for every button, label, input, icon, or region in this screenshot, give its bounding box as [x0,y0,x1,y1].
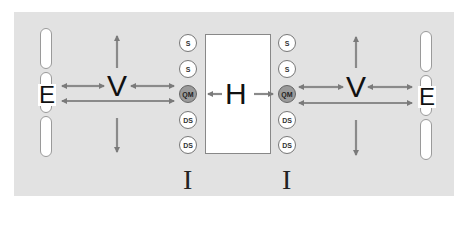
right-circle-qm: QM [278,85,296,103]
right-i-label: I [282,166,291,194]
right-e-label: E [418,86,436,108]
h-label: H [225,79,247,109]
left-circle-ds-2: DS [179,136,197,154]
right-circle-s-1: S [278,34,296,52]
left-circle-ds-1: DS [179,111,197,129]
left-circle-qm: QM [179,85,197,103]
right-circle-s-2: S [278,60,296,78]
right-circle-ds-2: DS [278,136,296,154]
right-circle-ds-1: DS [278,111,296,129]
left-i-label: I [183,166,192,194]
left-e-label: E [38,84,56,106]
left-circle-s-2: S [179,60,197,78]
left-circle-s-1: S [179,34,197,52]
right-v-label: V [346,72,366,102]
left-v-label: V [107,71,127,101]
